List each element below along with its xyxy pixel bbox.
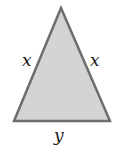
left-side-label: x: [22, 50, 32, 70]
triangle-diagram: x x y: [0, 0, 115, 155]
base-label: y: [53, 125, 64, 145]
right-side-label: x: [90, 50, 100, 70]
